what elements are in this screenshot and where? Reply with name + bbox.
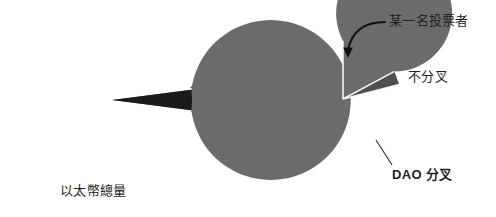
main-pie-group (112, 20, 351, 180)
leader-line-dao-fork (376, 140, 392, 165)
chart-figure: 以太幣總量 某一名投票者 不分叉 DAO 分叉 (0, 0, 496, 217)
label-no-fork: 不分叉 (408, 70, 448, 84)
label-single-voter: 某一名投票者 (389, 14, 469, 28)
main-pie-slice-voted-highlight[interactable] (112, 90, 192, 110)
label-dao-fork: DAO 分叉 (392, 168, 453, 182)
label-total-supply: 以太幣總量 (60, 184, 127, 198)
